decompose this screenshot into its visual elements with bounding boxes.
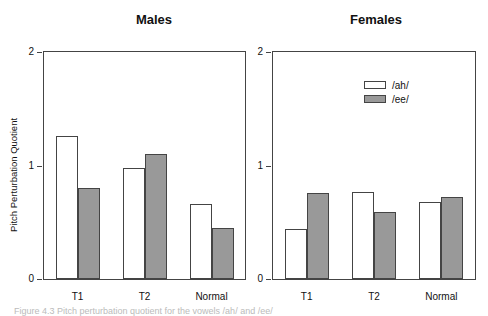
bar-t1-ee — [78, 188, 100, 279]
legend-swatch-ah — [364, 81, 386, 89]
bar-t2-ah — [352, 192, 374, 279]
legend-item-ah: /ah/ — [364, 78, 409, 92]
y-axis-label: Pitch Perturbation Quotient — [8, 118, 19, 232]
legend-swatch-ee — [364, 95, 386, 103]
figure-caption: Figure 4.3 Pitch perturbation quotient f… — [14, 306, 273, 316]
bar-t2-ee — [374, 212, 396, 279]
y-tick-mark — [37, 166, 42, 167]
bar-normal-ee — [441, 197, 463, 279]
y-tick-label: 2 — [249, 46, 263, 57]
y-tick-label: 1 — [249, 160, 263, 171]
x-tick-label: T1 — [48, 291, 108, 302]
y-tick-mark — [37, 52, 42, 53]
y-tick-label: 0 — [20, 273, 34, 284]
x-tick-label: Normal — [411, 291, 471, 302]
bar-t2-ah — [123, 168, 145, 279]
y-tick-mark — [37, 279, 42, 280]
x-tick-label: T2 — [115, 291, 175, 302]
x-tick-label: Normal — [182, 291, 242, 302]
bar-normal-ee — [212, 228, 234, 279]
bar-t1-ah — [285, 229, 307, 279]
y-tick-label: 1 — [20, 160, 34, 171]
legend-item-ee: /ee/ — [364, 92, 409, 106]
legend: /ah/ /ee/ — [364, 78, 409, 106]
females-title: Females — [326, 12, 426, 27]
x-tick-label: T1 — [277, 291, 337, 302]
x-tick-label: T2 — [344, 291, 404, 302]
bar-t1-ee — [307, 193, 329, 279]
males-title: Males — [104, 12, 204, 27]
bar-normal-ah — [190, 204, 212, 279]
y-tick-mark — [266, 166, 271, 167]
y-tick-mark — [266, 279, 271, 280]
y-tick-mark — [266, 52, 271, 53]
bar-normal-ah — [419, 202, 441, 279]
bar-t1-ah — [56, 136, 78, 279]
y-tick-label: 2 — [20, 46, 34, 57]
males-plot-area — [43, 51, 246, 280]
y-tick-label: 0 — [249, 273, 263, 284]
bar-t2-ee — [145, 154, 167, 279]
